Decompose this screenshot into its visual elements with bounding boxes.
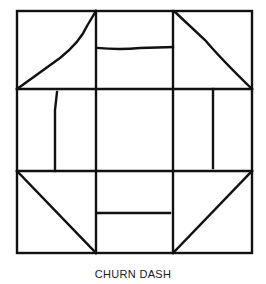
triangle-diagonal-bottom-left [17,171,96,253]
triangle-diagonal-top-left [17,11,96,89]
triangle-diagonal-top-right [175,12,252,89]
diagram-caption: CHURN DASH [0,268,266,280]
dash-top [97,47,173,49]
triangle-diagonal-bottom-right [173,171,252,253]
churn-dash-quilt-block [0,0,266,260]
dash-left [55,92,57,171]
